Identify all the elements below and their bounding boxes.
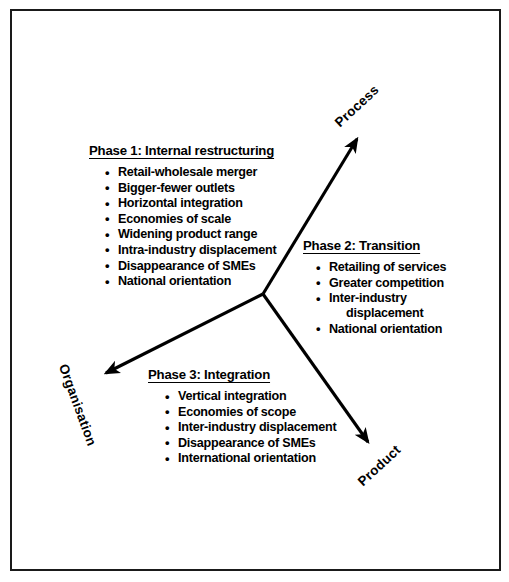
phase-2-block: Phase 2: Transition Retailing of service… xyxy=(303,238,446,337)
list-item: International orientation xyxy=(164,451,336,467)
list-item: Widening product range xyxy=(104,227,276,243)
list-item: Retail-wholesale merger xyxy=(104,165,276,181)
list-item: Economies of scope xyxy=(164,405,336,421)
list-item: Inter-industrydisplacement xyxy=(315,291,446,321)
phase-1-block: Phase 1: Internal restructuring Retail-w… xyxy=(89,143,276,290)
phase-2-title: Phase 2: Transition xyxy=(303,238,446,253)
list-item: Vertical integration xyxy=(164,389,336,405)
list-item: Bigger-fewer outlets xyxy=(104,181,276,197)
phase-2-list: Retailing of services Greater competitio… xyxy=(315,260,446,337)
list-item-line-2: displacement xyxy=(329,306,446,321)
phase-3-block: Phase 3: Integration Vertical integratio… xyxy=(148,367,336,467)
phase-1-list: Retail-wholesale merger Bigger-fewer out… xyxy=(104,165,276,290)
list-item: Economies of scale xyxy=(104,212,276,228)
list-item: Horizontal integration xyxy=(104,196,276,212)
phase-3-list: Vertical integration Economies of scope … xyxy=(164,389,336,467)
list-item: Greater competition xyxy=(315,276,446,292)
list-item: Inter-industry displacement xyxy=(164,420,336,436)
list-item: Disappearance of SMEs xyxy=(164,436,336,452)
list-item: National orientation xyxy=(315,322,446,338)
figure-canvas: Process Product Organisation Phase 1: In… xyxy=(0,0,509,582)
axis-arrow-organisation xyxy=(106,294,263,373)
list-item: Retailing of services xyxy=(315,260,446,276)
phase-1-title: Phase 1: Internal restructuring xyxy=(89,143,276,158)
list-item: National orientation xyxy=(104,274,276,290)
list-item: Intra-industry displacement xyxy=(104,243,276,259)
phase-3-title: Phase 3: Integration xyxy=(148,367,336,382)
list-item-line-1: Inter-industry xyxy=(329,291,407,305)
list-item: Disappearance of SMEs xyxy=(104,259,276,275)
